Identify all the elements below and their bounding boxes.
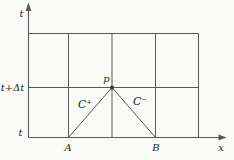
point-p-label: p [103,73,110,84]
t-axis-arrowhead-icon [26,3,32,12]
x-axis-label: x [218,142,224,153]
x-axis-arrowhead-icon [219,135,227,141]
characteristic-c-minus-label: C⁻ [133,95,147,108]
grid-lines [29,34,199,138]
axes [26,3,227,141]
point-p-dot [110,86,114,90]
characteristic-c-plus-label: C⁺ [78,98,92,111]
t-axis-label: t [19,8,24,19]
characteristic-c-plus-line [69,88,113,138]
level-t-label: t [18,127,23,138]
point-b-label: B [151,142,159,153]
spacetime-characteristics-diagram: t t+Δt t A B x p C⁺ C⁻ [0,0,234,160]
level-t-plus-dt-label: t+Δt [1,82,26,93]
diagram-container: t t+Δt t A B x p C⁺ C⁻ [0,0,234,160]
point-a-label: A [63,142,71,153]
